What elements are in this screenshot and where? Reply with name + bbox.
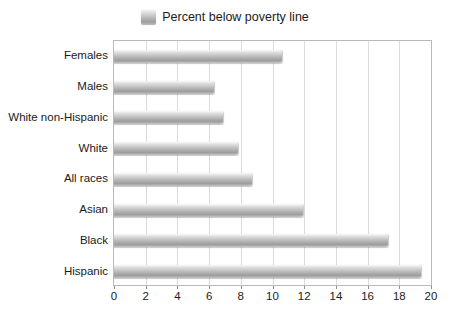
x-axis-tick-label-20: 20 [425,289,438,303]
y-axis-category-labels: FemalesMalesWhite non-HispanicWhiteAll r… [0,40,108,286]
bar-row [114,265,431,279]
x-axis-tick-label-10: 10 [266,289,279,303]
bar-row [114,234,431,248]
bar-asian [114,204,303,217]
x-axis-tick-label-8: 8 [238,289,244,303]
bar-white [114,142,238,155]
bar-black [114,234,388,247]
bar-rows [114,41,431,285]
y-axis-label-asian: Asian [0,203,108,215]
y-axis-label-females: Females [0,49,108,61]
y-axis-label-hispanic: Hispanic [0,265,108,277]
chart-legend: Percent below poverty line [0,10,450,25]
legend-label: Percent below poverty line [162,10,309,25]
bar-males [114,81,214,94]
bar-hispanic [114,265,421,278]
x-axis-tick-label-2: 2 [142,289,148,303]
y-axis-label-black: Black [0,234,108,246]
bar-all-races [114,173,252,186]
bar-row [114,142,431,156]
x-axis-tick-label-14: 14 [329,289,342,303]
y-axis-label-all-races: All races [0,172,108,184]
x-axis-tick-label-4: 4 [174,289,180,303]
y-axis-label-white-non-hispanic: White non-Hispanic [0,111,108,123]
x-axis-tick-label-6: 6 [206,289,212,303]
y-axis-label-males: Males [0,80,108,92]
x-axis-tick-labels: 02468101214161820 [113,289,432,305]
legend-color-swatch [141,10,156,25]
x-axis-tick-label-16: 16 [361,289,374,303]
x-axis-tick-label-0: 0 [111,289,117,303]
bar-row [114,172,431,186]
gridline [431,41,432,285]
bar-row [114,49,431,63]
x-axis-tick-label-12: 12 [298,289,311,303]
bar-females [114,50,282,63]
y-axis-label-white: White [0,142,108,154]
bar-row [114,203,431,217]
bar-white-non-hispanic [114,111,223,124]
bar-row [114,111,431,125]
x-axis-tick-label-18: 18 [393,289,406,303]
plot-area [113,40,432,286]
bar-row [114,80,431,94]
poverty-bar-chart: Percent below poverty line FemalesMalesW… [0,0,450,310]
